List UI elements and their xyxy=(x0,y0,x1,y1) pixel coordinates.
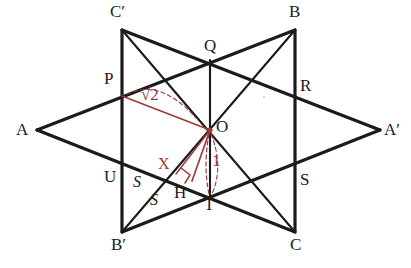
vertex-label-c-prime: C′ xyxy=(110,3,125,20)
point-o-dot xyxy=(207,127,212,132)
point-label-t: T xyxy=(204,196,214,213)
measure-label-one: 1 xyxy=(212,152,221,169)
point-label-h: H xyxy=(174,184,186,201)
point-label-p: P xyxy=(104,70,113,87)
point-label-s-right: S xyxy=(300,171,309,188)
vertex-label-a: A xyxy=(16,121,28,138)
vertex-label-a-prime: A′ xyxy=(384,121,400,138)
vertex-label-b-prime: B′ xyxy=(111,236,126,253)
right-angle-marker-h xyxy=(181,168,190,183)
annotation-segment-p-o xyxy=(122,96,210,130)
point-label-r: R xyxy=(300,77,311,94)
annotation-segment-o-h xyxy=(192,130,210,181)
vertex-label-b: B xyxy=(289,3,300,20)
triangle-abc xyxy=(37,30,295,232)
vertex-label-c: C xyxy=(290,236,301,253)
point-label-u: U xyxy=(104,168,116,185)
triangle-a-prime-b-prime-c-prime xyxy=(122,30,380,232)
point-label-q: Q xyxy=(204,37,216,54)
geometry-figure: A A′ B B′ C C′ P Q R S T U O H X S S √2 … xyxy=(0,0,411,268)
point-label-o: O xyxy=(216,118,228,135)
side-label-s-lower: S xyxy=(150,192,158,208)
scan-speck xyxy=(263,96,265,98)
measure-label-sqrt2: √2 xyxy=(141,86,159,103)
side-label-s-upper: S xyxy=(133,174,141,190)
point-label-x: X xyxy=(158,156,170,172)
annotation-segment-o-t-dashed xyxy=(206,134,209,194)
